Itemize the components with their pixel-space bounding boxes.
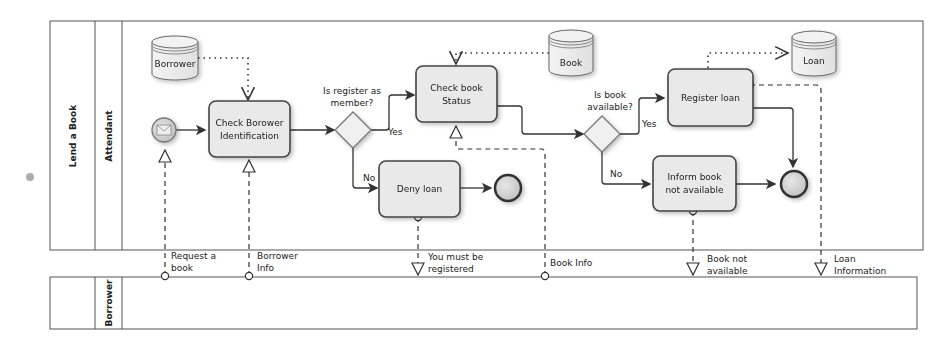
svg-text:registered: registered (428, 264, 474, 274)
svg-text:Inform book: Inform book (667, 172, 722, 182)
svg-text:Book not: Book not (707, 254, 747, 264)
start-event-message[interactable] (152, 118, 176, 142)
svg-text:Status: Status (442, 96, 471, 106)
svg-text:Information: Information (834, 266, 886, 276)
gateway-label-member-1: Is register as (323, 86, 381, 96)
lane-label-borrower: Borrower (104, 279, 114, 327)
task-check-borrower-identification[interactable]: Check Borower Identification (209, 101, 290, 157)
svg-text:Request a: Request a (171, 251, 216, 261)
task-deny-loan[interactable]: Deny loan (379, 161, 460, 217)
svg-text:Loan: Loan (834, 254, 856, 264)
message-label-book-not-available: Book not available (707, 254, 748, 276)
datastore-loan[interactable]: Loan (792, 31, 836, 76)
task-check-book-status[interactable]: Check book Status (416, 66, 497, 122)
gateway-is-book-available[interactable] (584, 116, 620, 152)
pool-label: Lend a Book (68, 104, 78, 167)
gateway-label-member-2: member? (331, 98, 374, 108)
message-label-request-book: Request a book (171, 251, 216, 273)
svg-text:Register loan: Register loan (681, 93, 740, 103)
svg-text:You must be: You must be (427, 252, 484, 262)
datastore-borrower[interactable]: Borrower (152, 36, 198, 80)
datastore-book-label: Book (560, 58, 583, 68)
svg-text:book: book (171, 263, 194, 273)
svg-text:Deny loan: Deny loan (397, 184, 443, 194)
task-register-loan[interactable]: Register loan (668, 69, 753, 126)
lane-label-attendant: Attendant (104, 110, 114, 162)
gateway-label-available-2: available? (587, 102, 633, 112)
message-label-borrower-info: Borrower Info (257, 251, 298, 273)
svg-text:Check Borower: Check Borower (216, 118, 284, 128)
end-event-deny[interactable] (495, 175, 521, 201)
message-label-book-info: Book Info (550, 258, 593, 268)
svg-text:Check book: Check book (430, 83, 483, 93)
pool-borrower: Borrower (50, 277, 917, 329)
gateway-label-available-1: Is book (594, 90, 627, 100)
smudge-mark (26, 173, 34, 181)
flow-label-yes-available: Yes (641, 119, 657, 129)
svg-text:Borrower: Borrower (257, 251, 298, 261)
message-label-loan-information: Loan Information (834, 254, 886, 276)
message-label-must-register: You must be registered (427, 252, 484, 274)
task-inform-book-not-available[interactable]: Inform book not available (653, 156, 736, 211)
datastore-borrower-label: Borrower (155, 59, 196, 69)
end-event-loan[interactable] (781, 171, 807, 197)
bpmn-diagram: Lend a Book Attendant Borrower Borrower … (0, 0, 952, 348)
gateway-is-register-as-member[interactable] (335, 112, 371, 148)
svg-text:available: available (707, 266, 748, 276)
flow-label-no-available: No (610, 169, 623, 179)
flow-label-yes-member: Yes (387, 127, 403, 137)
svg-text:Identification: Identification (220, 131, 279, 141)
svg-text:Info: Info (257, 263, 275, 273)
datastore-loan-label: Loan (803, 56, 825, 66)
svg-text:Book Info: Book Info (550, 258, 593, 268)
datastore-book[interactable]: Book (549, 30, 593, 76)
flow-label-no-member: No (363, 173, 376, 183)
svg-text:not available: not available (665, 185, 724, 195)
